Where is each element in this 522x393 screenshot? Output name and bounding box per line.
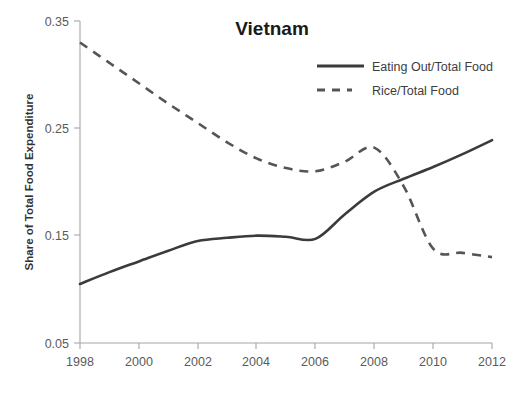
x-tick-label-2: 2002 bbox=[184, 355, 212, 369]
x-tick-label-7: 2012 bbox=[478, 355, 506, 369]
y-tick-label-2: 0.15 bbox=[45, 229, 69, 243]
x-tick-label-3: 2004 bbox=[242, 355, 270, 369]
x-tick-label-0: 1998 bbox=[66, 355, 94, 369]
x-tick-label-1: 2000 bbox=[125, 355, 153, 369]
y-tick-label-1: 0.25 bbox=[45, 122, 69, 136]
y-tick-label-0: 0.35 bbox=[45, 15, 69, 29]
legend-label-eating-out: Eating Out/Total Food bbox=[372, 60, 493, 74]
series-line-eating-out-total-food bbox=[80, 140, 492, 284]
series-line-rice-total-food bbox=[80, 42, 492, 257]
y-axis-title: Share of Total Food Expenditure bbox=[23, 94, 35, 271]
x-tick-label-4: 2006 bbox=[301, 355, 329, 369]
x-tick-label-6: 2010 bbox=[419, 355, 447, 369]
y-tick-label-3: 0.05 bbox=[45, 337, 69, 351]
line-chart: Share of Total Food Expenditure Vietnam … bbox=[0, 0, 522, 393]
chart-title: Vietnam bbox=[235, 18, 309, 39]
x-tick-label-5: 2008 bbox=[360, 355, 388, 369]
chart-figure: Share of Total Food Expenditure Vietnam … bbox=[0, 0, 522, 393]
legend-label-rice: Rice/Total Food bbox=[372, 84, 459, 98]
chart-legend: Eating Out/Total Food Rice/Total Food bbox=[317, 60, 493, 98]
